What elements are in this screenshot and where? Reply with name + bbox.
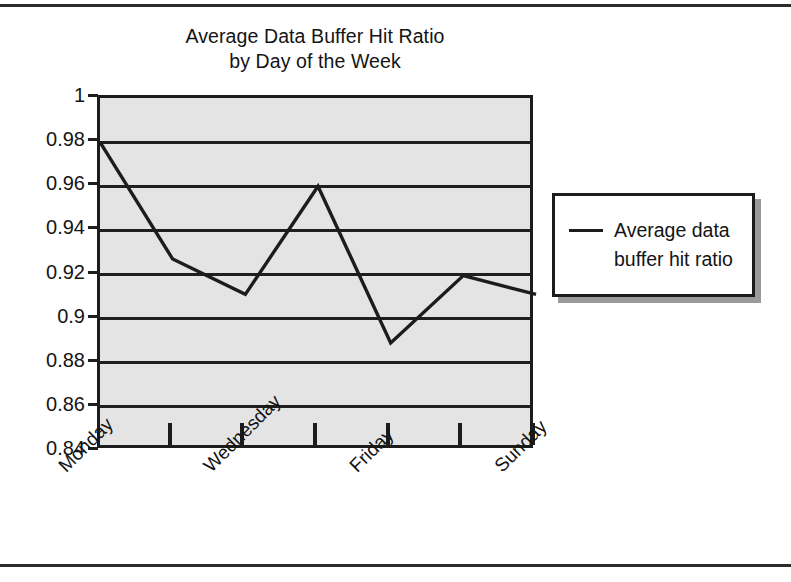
figure-root: Average Data Buffer Hit Ratio by Day of … [0, 0, 791, 582]
legend-line-swatch-icon [569, 229, 603, 232]
y-axis-tick-label: 0.96 [46, 173, 85, 193]
chart-title: Average Data Buffer Hit Ratio by Day of … [97, 24, 533, 74]
legend-entry: Average data buffer hit ratio [569, 216, 742, 274]
page-rule-bottom [0, 564, 791, 567]
chart-title-line-1: Average Data Buffer Hit Ratio [97, 24, 533, 49]
y-axis-tick-label: 0.94 [46, 217, 85, 237]
legend-entry-label: Average data buffer hit ratio [614, 216, 733, 274]
plot-area [97, 95, 533, 448]
legend-entry-label-line-2: buffer hit ratio [614, 245, 733, 274]
data-series-line [100, 98, 536, 451]
series-layer [100, 98, 530, 445]
legend-entry-label-line-1: Average data [614, 216, 733, 245]
y-axis-tick-label: 1 [74, 85, 85, 105]
legend-box: Average data buffer hit ratio [552, 193, 755, 297]
page-rule-top [0, 4, 791, 7]
chart-title-line-2: by Day of the Week [97, 49, 533, 74]
y-axis-tick-label: 0.9 [57, 306, 85, 326]
y-axis-tick-label: 0.86 [46, 394, 85, 414]
y-axis-tick-label: 0.88 [46, 350, 85, 370]
y-axis-tick-label: 0.92 [46, 262, 85, 282]
y-axis-tick-label: 0.98 [46, 129, 85, 149]
